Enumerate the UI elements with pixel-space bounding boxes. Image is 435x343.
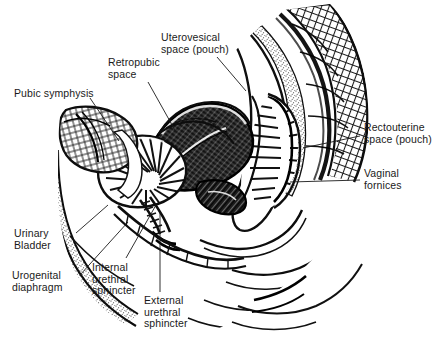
label-vaginal-fornices: Vaginal fornices [364, 168, 402, 191]
label-uterovesical-space: Uterovesical space (pouch) [161, 32, 229, 55]
label-internal-urethral-sphincter: Internal urethral sphincter [92, 262, 136, 297]
label-external-urethral-sphincter: External urethral sphincter [144, 295, 188, 330]
label-retropubic-space: Retropubic space [108, 57, 160, 80]
label-rectouterine-space: Rectouterine space (pouch) [364, 122, 432, 145]
anatomical-figure: Uterovesical space (pouch)Retropubic spa… [0, 0, 435, 343]
label-pubic-symphysis: Pubic symphysis [14, 88, 94, 100]
label-urogenital-diaphragm: Urogenital diaphragm [12, 270, 63, 293]
label-urinary-bladder: Urinary Bladder [14, 228, 51, 251]
